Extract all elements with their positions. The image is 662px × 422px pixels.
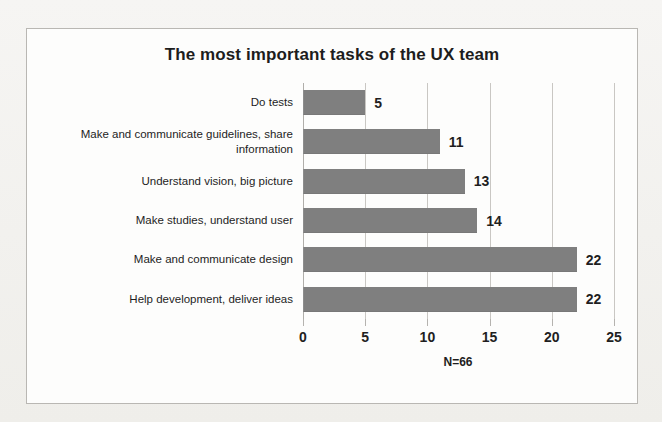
bar [303, 90, 365, 115]
x-tick-20 [552, 319, 553, 326]
chart-frame: The most important tasks of the UX team … [26, 28, 638, 404]
bar-value-label: 13 [474, 173, 490, 189]
chart-title: The most important tasks of the UX team [27, 45, 637, 65]
x-tick-label-25: 25 [606, 329, 622, 345]
category-label-text: Do tests [251, 95, 293, 110]
gridline-25 [614, 83, 615, 319]
x-tick-label-0: 0 [299, 329, 307, 345]
category-label: Understand vision, big picture [45, 162, 293, 201]
bar-row: Do tests5 [303, 83, 614, 122]
bar-row: Make and communicate design22 [303, 240, 614, 279]
category-label: Make and communicate guidelines, share i… [45, 122, 293, 161]
bar-row: Make studies, understand user14 [303, 201, 614, 240]
bar-row: Make and communicate guidelines, share i… [303, 122, 614, 161]
bar-value-label: 11 [449, 134, 464, 150]
x-tick-15 [490, 319, 491, 326]
sample-size-annotation: N=66 [443, 355, 472, 369]
category-label: Help development, deliver ideas [45, 280, 293, 319]
x-tick-label-15: 15 [482, 329, 498, 345]
category-label-text: Make and communicate guidelines, share i… [45, 127, 293, 157]
bar-value-label: 14 [486, 213, 502, 229]
bar [303, 169, 465, 194]
bar [303, 247, 577, 272]
x-tick-label-10: 10 [420, 329, 436, 345]
x-tick-0 [303, 319, 304, 326]
category-label: Make studies, understand user [45, 201, 293, 240]
bar-value-label: 22 [586, 252, 602, 268]
category-label: Make and communicate design [45, 240, 293, 279]
bar-value-label: 22 [586, 291, 602, 307]
category-label-text: Understand vision, big picture [142, 174, 294, 189]
x-tick-label-5: 5 [361, 329, 369, 345]
bar [303, 208, 477, 233]
category-label-text: Help development, deliver ideas [129, 292, 293, 307]
category-label-text: Make and communicate design [134, 252, 293, 267]
category-label: Do tests [45, 83, 293, 122]
bar [303, 287, 577, 312]
x-tick-5 [365, 319, 366, 326]
x-tick-label-20: 20 [544, 329, 560, 345]
x-tick-25 [614, 319, 615, 326]
category-label-text: Make studies, understand user [136, 213, 293, 228]
x-tick-10 [427, 319, 428, 326]
bar [303, 129, 440, 154]
bar-value-label: 5 [374, 95, 382, 111]
bar-row: Understand vision, big picture13 [303, 162, 614, 201]
plot-area: Do tests5Make and communicate guidelines… [303, 83, 614, 319]
bar-row: Help development, deliver ideas22 [303, 280, 614, 319]
